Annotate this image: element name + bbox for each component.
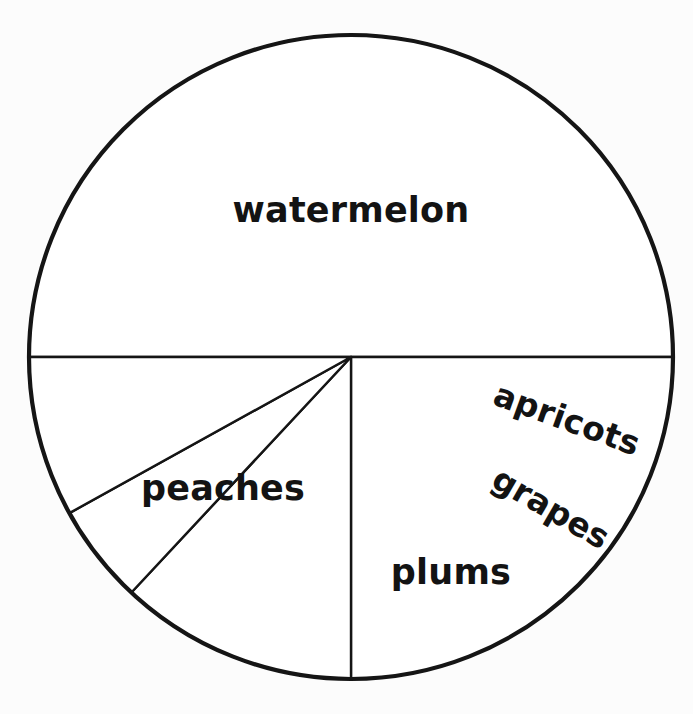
pie-chart-svg	[0, 0, 693, 714]
pie-chart-figure: watermelon peaches plums grapes apricots	[0, 0, 693, 714]
slice-label-watermelon: watermelon	[233, 190, 470, 230]
slice-label-peaches: peaches	[141, 468, 305, 508]
pie-slices-group	[29, 35, 673, 679]
slice-label-plums: plums	[391, 552, 511, 592]
